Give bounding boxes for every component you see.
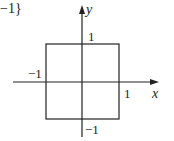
x-axis-label: x <box>152 87 158 100</box>
x-tick-neg-label: −1 <box>28 67 42 80</box>
fragment-text: −1} <box>0 2 22 15</box>
x-tick-pos-label: 1 <box>124 87 131 100</box>
y-tick-neg-label: −1 <box>85 123 99 136</box>
y-axis-label: y <box>86 3 92 16</box>
y-tick-pos-label: 1 <box>88 30 95 43</box>
coordinate-plane <box>0 0 174 141</box>
x-axis-arrow-icon <box>150 79 159 85</box>
y-axis-arrow-icon <box>79 5 85 14</box>
